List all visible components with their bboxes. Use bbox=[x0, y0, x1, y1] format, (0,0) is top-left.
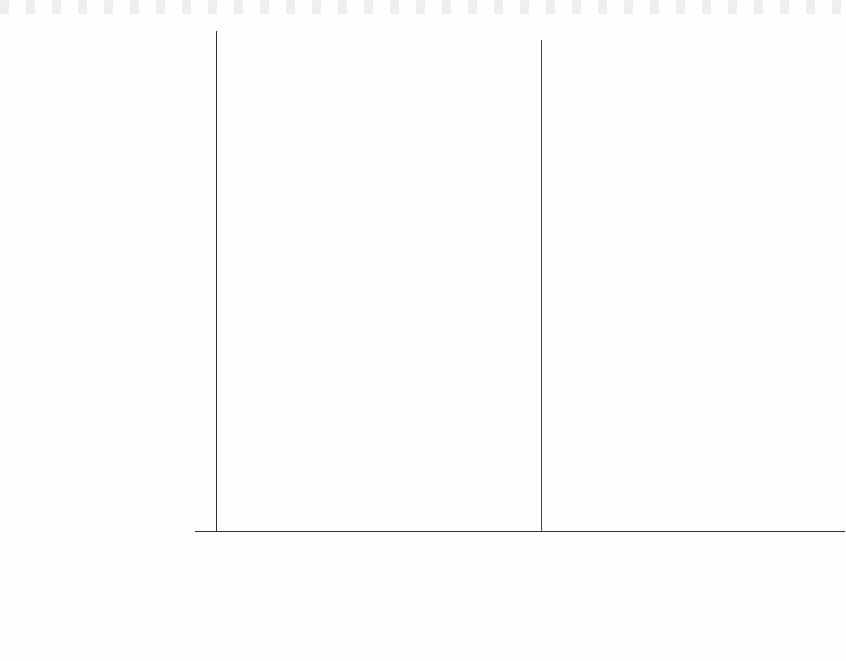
x-axis-line bbox=[195, 531, 845, 532]
scan-artifact bbox=[0, 0, 846, 14]
bar-chart-figure bbox=[0, 0, 846, 661]
group-divider-line bbox=[541, 40, 542, 531]
y-axis-line bbox=[216, 31, 217, 531]
